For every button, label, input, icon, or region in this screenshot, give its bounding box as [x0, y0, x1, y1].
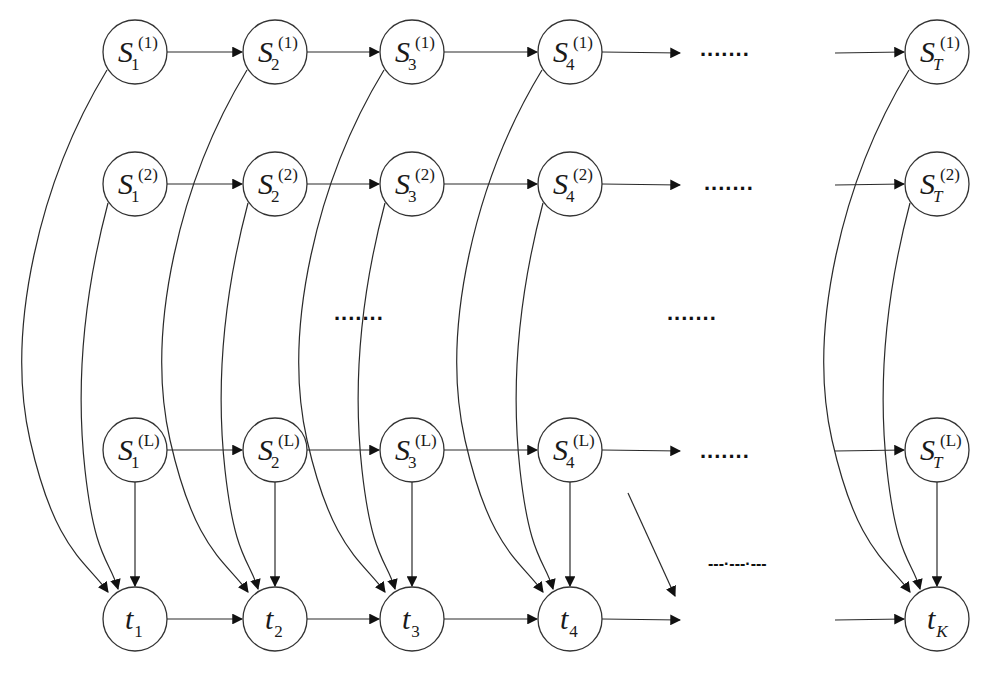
horizontal-edge-to-ellipsis	[602, 450, 680, 451]
node-circle	[538, 152, 602, 216]
curve-row1-to-time	[162, 70, 248, 592]
time-node-t4: t4	[538, 587, 602, 651]
state-node-S4_1: S4(1)	[538, 20, 602, 84]
ellipsis-bottom-dashes: ---·---·---	[708, 555, 767, 572]
node-subscript: T	[933, 187, 944, 206]
node-circle	[103, 20, 167, 84]
node-circle	[380, 152, 444, 216]
node-superscript: (2)	[940, 165, 960, 184]
curve-row2-to-time	[358, 203, 395, 589]
state-node-S3_2: S3(2)	[380, 152, 444, 216]
node-superscript: (2)	[278, 165, 298, 184]
curve-row2-to-time	[516, 203, 553, 589]
node-circle	[538, 418, 602, 482]
node-subscript: K	[935, 622, 949, 641]
node-subscript: T	[933, 453, 944, 472]
node-subscript: 3	[408, 187, 417, 206]
node-superscript: (2)	[573, 165, 593, 184]
node-subscript: 1	[131, 55, 140, 74]
node-superscript: (L)	[138, 431, 160, 450]
node-subscript: 1	[134, 622, 143, 641]
time-node-tK: tK	[905, 587, 969, 651]
ellipsis-rowL-dots: .......	[700, 438, 750, 463]
node-circle	[380, 418, 444, 482]
state-node-S4_2: S4(2)	[538, 152, 602, 216]
horizontal-edge-from-ellipsis	[835, 619, 904, 620]
curve-row2-to-time	[81, 203, 118, 589]
curve-row1-to-time	[299, 70, 385, 592]
diagonal-edge-to-ellipsis	[628, 493, 675, 596]
node-subscript: 4	[566, 453, 575, 472]
ellipsis-mid-right-dots: .......	[667, 300, 717, 325]
node-circle	[103, 152, 167, 216]
state-node-S3_1: S3(1)	[380, 20, 444, 84]
node-superscript: (L)	[573, 431, 595, 450]
state-node-S4_L: S4(L)	[538, 418, 602, 482]
time-node-t2: t2	[243, 587, 307, 651]
time-node-t3: t3	[380, 587, 444, 651]
node-subscript: 2	[271, 453, 280, 472]
curve-row1-to-time	[457, 70, 543, 592]
horizontal-edge-to-ellipsis	[602, 619, 680, 620]
state-node-S1_2: S1(2)	[103, 152, 167, 216]
ellipsis-row2-dots: .......	[704, 170, 754, 195]
horizontal-edge-from-ellipsis	[835, 450, 904, 451]
state-node-ST_1: ST(1)	[905, 20, 969, 84]
horizontal-edge-to-ellipsis	[602, 184, 680, 185]
node-circle	[905, 418, 969, 482]
state-node-ST_L: ST(L)	[905, 418, 969, 482]
curve-row2-to-time	[883, 203, 920, 589]
node-circle	[905, 587, 969, 651]
node-superscript: (1)	[138, 33, 158, 52]
state-node-S2_L: S2(L)	[243, 418, 307, 482]
node-subscript: 2	[271, 55, 280, 74]
state-node-S3_L: S3(L)	[380, 418, 444, 482]
node-subscript: 4	[569, 622, 578, 641]
node-superscript: (2)	[415, 165, 435, 184]
curve-row2-to-time	[221, 203, 258, 589]
horizontal-edge-to-ellipsis	[602, 52, 680, 53]
state-node-ST_2: ST(2)	[905, 152, 969, 216]
node-superscript: (1)	[573, 33, 593, 52]
node-circle	[243, 587, 307, 651]
node-subscript: 1	[131, 187, 140, 206]
node-subscript: 3	[408, 453, 417, 472]
node-circle	[103, 418, 167, 482]
horizontal-edge-from-ellipsis	[835, 184, 904, 185]
node-superscript: (L)	[278, 431, 300, 450]
node-circle	[243, 20, 307, 84]
node-circle	[380, 587, 444, 651]
node-superscript: (1)	[415, 33, 435, 52]
state-node-S2_1: S2(1)	[243, 20, 307, 84]
node-superscript: (2)	[138, 165, 158, 184]
nodes: S1(1)S2(1)S3(1)S4(1)ST(1)S1(2)S2(2)S3(2)…	[103, 20, 969, 651]
node-subscript: 2	[274, 622, 283, 641]
graphical-model-diagram: S1(1)S2(1)S3(1)S4(1)ST(1)S1(2)S2(2)S3(2)…	[0, 0, 1005, 674]
node-subscript: 3	[411, 622, 420, 641]
node-circle	[905, 152, 969, 216]
node-subscript: 2	[271, 187, 280, 206]
node-subscript: T	[933, 55, 944, 74]
curve-row1-to-time	[22, 70, 108, 592]
edges	[22, 52, 937, 620]
time-node-t1: t1	[103, 587, 167, 651]
state-node-S1_1: S1(1)	[103, 20, 167, 84]
horizontal-edge-from-ellipsis	[835, 52, 904, 53]
node-circle	[103, 587, 167, 651]
ellipsis-mid-left-dots: .......	[334, 300, 384, 325]
node-circle	[243, 152, 307, 216]
node-subscript: 4	[566, 187, 575, 206]
node-superscript: (L)	[415, 431, 437, 450]
node-superscript: (1)	[278, 33, 298, 52]
node-circle	[905, 20, 969, 84]
node-circle	[538, 20, 602, 84]
ellipsis-row1-dots: .......	[700, 36, 750, 61]
node-superscript: (L)	[940, 431, 962, 450]
state-node-S1_L: S1(L)	[103, 418, 167, 482]
node-subscript: 4	[566, 55, 575, 74]
curve-row1-to-time	[824, 70, 910, 592]
state-node-S2_2: S2(2)	[243, 152, 307, 216]
node-subscript: 3	[408, 55, 417, 74]
node-subscript: 1	[131, 453, 140, 472]
node-circle	[243, 418, 307, 482]
